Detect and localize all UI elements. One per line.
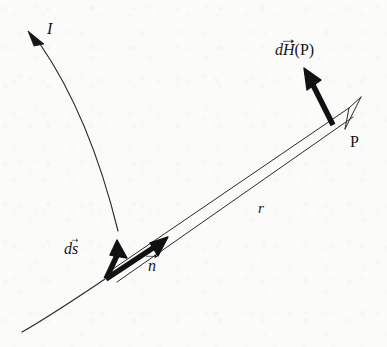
ds-label-s-vector: s xyxy=(72,241,78,257)
unit-normal-vector-group: n xyxy=(148,258,156,274)
dh-label: dH(P) xyxy=(275,42,314,58)
dh-vector xyxy=(304,68,333,125)
r-vector-arrowhead-back-icon xyxy=(345,97,361,129)
n-vector-arrowhead-icon xyxy=(150,237,168,256)
wire-upper-arc xyxy=(40,44,118,231)
current-direction-arrowhead-icon xyxy=(28,31,44,46)
dh-label-h-vector: H xyxy=(283,42,295,58)
point-p-label: P xyxy=(350,134,359,150)
dh-label-h: H xyxy=(283,41,295,58)
diagram-canvas xyxy=(0,0,387,347)
unit-normal-label-text: n xyxy=(148,257,156,274)
dh-vector-shaft xyxy=(311,81,333,125)
ds-label-s: s xyxy=(72,240,78,257)
distance-r-label-text: r xyxy=(258,200,264,216)
biot-savart-figure: I dH(P) P r ds n xyxy=(0,0,387,347)
wire-lower-arc xyxy=(22,279,105,332)
r-vector-arrowhead-upper-icon xyxy=(349,97,361,108)
unit-normal-label: n xyxy=(148,258,156,274)
ds-label-d: d xyxy=(64,240,72,257)
dh-vector-arrowhead-icon xyxy=(304,68,321,90)
ds-vector-arrowhead-icon xyxy=(110,240,127,258)
distance-r-label: r xyxy=(258,201,264,216)
dh-label-argument: (P) xyxy=(295,41,315,58)
dh-label-d: d xyxy=(275,41,283,58)
current-label-text: I xyxy=(47,20,52,37)
point-p-label-text: P xyxy=(350,133,359,150)
current-wire xyxy=(22,31,118,332)
r-vector-edge-upper xyxy=(110,108,349,271)
current-label: I xyxy=(47,21,52,37)
ds-label: ds xyxy=(64,241,78,257)
